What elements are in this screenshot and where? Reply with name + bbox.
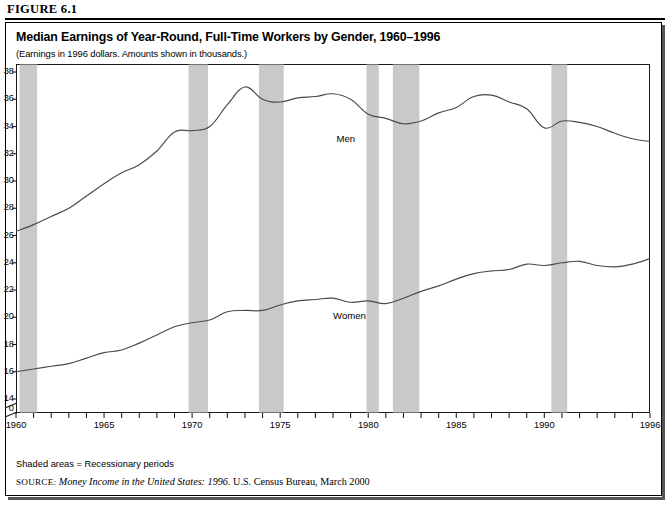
figure-page: FIGURE 6.1 Median Earnings of Year-Round…	[0, 0, 670, 506]
source-note: SOURCE: Money Income in the United State…	[16, 476, 370, 487]
source-title: Money Income in the United States: 1996.	[59, 476, 231, 487]
y-axis-break-marks	[5, 403, 17, 417]
axis-break-and-ticks	[0, 0, 670, 506]
source-prefix: SOURCE:	[16, 477, 56, 487]
shaded-areas-note: Shaded areas = Recessionary periods	[16, 459, 174, 469]
source-rest: U.S. Census Bureau, March 2000	[230, 476, 369, 487]
